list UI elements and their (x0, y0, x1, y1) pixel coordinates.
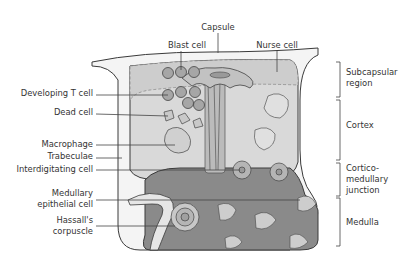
label-subcapsular-2: region (346, 78, 373, 88)
label-corticomedullary-3: junction (345, 185, 380, 195)
label-blast-cell: Blast cell (168, 40, 206, 50)
hassalls-corpuscle (171, 203, 199, 231)
label-corticomedullary-2: medullary (346, 174, 388, 184)
label-trabeculae: Trabeculae (47, 151, 93, 161)
region-labels: Subcapsular region Cortex Cortico- medul… (345, 67, 398, 227)
thymus-diagram: Blast cell Capsule Nurse cell Developing… (0, 0, 419, 259)
label-cortex: Cortex (346, 120, 374, 130)
label-corticomedullary-1: Cortico- (346, 163, 379, 173)
region-brackets (336, 62, 340, 246)
label-interdigitating-cell: Interdigitating cell (16, 164, 93, 174)
label-hassalls-1: Hassall's (56, 215, 93, 225)
label-dead-cell: Dead cell (54, 107, 93, 117)
label-medullary-1: Medullary (52, 188, 93, 198)
label-medullary-2: epithelial cell (37, 199, 93, 209)
label-medulla: Medulla (346, 217, 379, 227)
label-nurse-cell: Nurse cell (256, 40, 298, 50)
label-hassalls-2: corpuscle (53, 226, 93, 236)
trabeculae (205, 78, 225, 173)
label-subcapsular-1: Subcapsular (346, 67, 398, 77)
label-macrophage: Macrophage (41, 139, 93, 149)
label-capsule: Capsule (201, 22, 234, 32)
label-developing-t-cell: Developing T cell (21, 88, 93, 98)
